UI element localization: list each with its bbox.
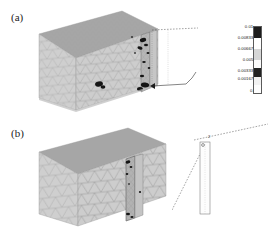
panel-a-viewport bbox=[36, 6, 170, 114]
vertical-slab-side bbox=[150, 30, 157, 88]
figure-root: (a) bbox=[0, 0, 271, 243]
colorbar-tick-4: 0.00333 bbox=[238, 68, 253, 73]
panel-a-3d-scene bbox=[36, 6, 170, 114]
vertical-slab-side-b bbox=[135, 154, 143, 218]
colorbar-tick-3: 0.005 bbox=[242, 57, 253, 62]
colorbar-tick-labels: 0.01 0.00833 0.00667 0.005 0.00333 0.001… bbox=[199, 22, 253, 96]
panel-b-callout-svg bbox=[172, 122, 268, 232]
colorbar-legend: 0.01 0.00833 0.00667 0.005 0.00333 0.001… bbox=[196, 26, 262, 92]
callout-strip bbox=[200, 142, 210, 214]
panel-b-tag: (b) bbox=[11, 127, 24, 139]
colorbar-tick-1: 0.00833 bbox=[238, 35, 253, 40]
colorbar-tick-0: 0.01 bbox=[245, 24, 253, 29]
colorbar-tick-2: 0.00667 bbox=[238, 46, 253, 51]
colorbar-gradient bbox=[254, 27, 261, 93]
panel-b-detail-callout: 2 bbox=[172, 122, 268, 232]
colorbar-tick-5: 0.00167 bbox=[238, 76, 253, 81]
panel-a: (a) bbox=[0, 0, 271, 118]
callout-leader-lower bbox=[172, 146, 204, 210]
colorbar-strip bbox=[253, 26, 262, 94]
vertical-slab-mesh-b bbox=[126, 156, 135, 221]
panel-b-viewport bbox=[36, 122, 170, 234]
panel-b-3d-scene bbox=[36, 122, 170, 234]
panel-a-tag: (a) bbox=[11, 11, 23, 23]
colorbar-tick-6: 0. bbox=[249, 88, 253, 93]
panel-b: (b) bbox=[0, 120, 271, 238]
callout-leader-upper bbox=[194, 124, 268, 140]
callout-label: 2 bbox=[208, 134, 210, 139]
